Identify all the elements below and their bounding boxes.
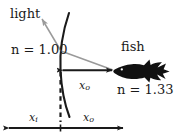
x-o-top-subscript: o	[85, 83, 90, 92]
refractive-index-air-label: n = 1.00	[11, 43, 67, 56]
water-surface-curve	[60, 13, 69, 117]
x-o-bottom-label: xo	[83, 108, 94, 124]
refractive-index-water-label: n = 1.33	[117, 83, 173, 96]
refraction-figure: light fish n = 1.00 n = 1.33 xo xi xo	[0, 0, 184, 139]
fish-label: fish	[121, 40, 145, 53]
fish-silhouette	[113, 60, 169, 83]
x-i-bottom-subscript: i	[35, 115, 38, 124]
x-o-bottom-subscript: o	[89, 115, 94, 124]
x-o-top-label: xo	[79, 76, 90, 92]
x-i-bottom-label: xi	[29, 108, 38, 124]
light-ray-water-segment	[61, 51, 113, 70]
light-label: light	[10, 7, 40, 20]
